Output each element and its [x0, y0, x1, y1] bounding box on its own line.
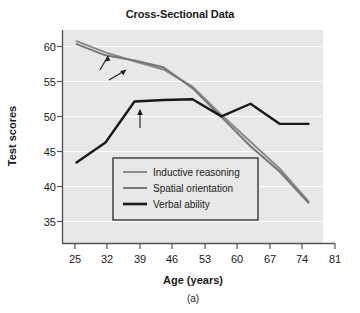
chart-legend[interactable]: Inductive reasoning Spatial orientation …	[113, 158, 258, 220]
chart-figure: Cross-Sectional Data Test scores Age (ye…	[0, 0, 360, 313]
legend-label-spatial-orientation: Spatial orientation	[153, 183, 233, 194]
plot-canvas: Inductive reasoning Spatial orientation …	[0, 0, 360, 313]
y-axis-ticks	[57, 47, 62, 222]
legend-label-verbal-ability: Verbal ability	[153, 199, 210, 210]
legend-label-inductive-reasoning: Inductive reasoning	[153, 167, 240, 178]
